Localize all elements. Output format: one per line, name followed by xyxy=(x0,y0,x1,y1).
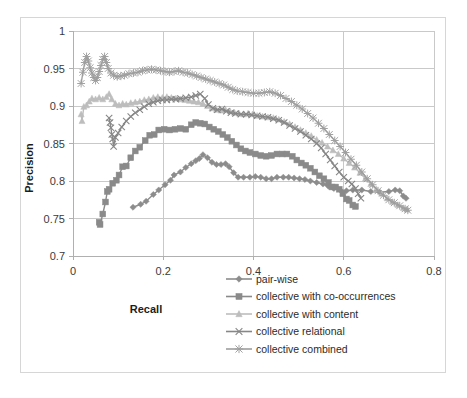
data-point-marker-x xyxy=(318,145,324,151)
y-tick-label: 0.7 xyxy=(50,250,65,262)
series-collective-with-co-occurrences xyxy=(96,120,358,228)
data-point-marker-asterisk xyxy=(287,98,295,106)
data-point-marker-square xyxy=(263,153,269,159)
data-point-marker-square xyxy=(116,172,122,178)
data-point-marker-triangle xyxy=(79,118,85,124)
data-point-marker-square xyxy=(137,144,143,150)
data-point-marker-square xyxy=(247,150,253,156)
legend-item-label: collective relational xyxy=(256,325,345,337)
data-point-marker-asterisk xyxy=(93,74,101,82)
tickmarks xyxy=(69,31,434,260)
data-point-marker-asterisk xyxy=(79,68,87,76)
data-point-marker-triangle xyxy=(330,147,336,153)
data-point-marker-square xyxy=(128,155,134,161)
data-point-marker-square xyxy=(177,126,183,132)
data-point-marker-square xyxy=(269,153,275,159)
data-point-marker-square xyxy=(156,127,162,133)
series-line xyxy=(81,57,408,211)
data-point-marker-diamond xyxy=(302,176,308,182)
data-point-marker-asterisk xyxy=(235,345,243,353)
data-point-marker-square xyxy=(258,153,264,159)
y-tick-label: 0.8 xyxy=(50,175,65,187)
data-point-marker-square xyxy=(100,211,106,217)
data-point-marker-square xyxy=(123,163,129,169)
data-point-marker-square xyxy=(167,127,173,133)
data-point-marker-asterisk xyxy=(358,168,366,176)
data-point-marker-square xyxy=(142,138,148,144)
legend-item-label: collective combined xyxy=(256,343,348,355)
data-point-marker-asterisk xyxy=(266,88,274,96)
data-point-marker-square xyxy=(252,151,258,157)
x-tick-label: 0 xyxy=(70,265,76,277)
data-point-marker-square xyxy=(103,199,109,205)
data-point-marker-square xyxy=(236,293,242,299)
legend-item-pair-wise[interactable]: pair-wise xyxy=(226,273,298,285)
y-tick-label: 0.85 xyxy=(44,138,65,150)
data-point-marker-asterisk xyxy=(239,88,247,96)
data-point-marker-diamond xyxy=(368,188,374,194)
chart-legend: pair-wisecollective with co-occurrencesc… xyxy=(226,273,395,355)
legend-item-collective-relational[interactable]: collective relational xyxy=(226,325,345,337)
data-point-marker-asterisk xyxy=(304,110,312,118)
x-axis-title: Recall xyxy=(130,303,162,315)
data-point-marker-asterisk xyxy=(244,89,252,97)
data-point-marker-triangle xyxy=(335,151,341,157)
y-axis-title: Precision xyxy=(23,143,35,193)
data-point-marker-square xyxy=(161,126,167,132)
data-point-marker-diamond xyxy=(314,179,320,185)
data-point-marker-x xyxy=(349,181,355,187)
legend-item-collective-combined[interactable]: collective combined xyxy=(226,343,348,355)
data-point-marker-square xyxy=(183,126,189,132)
legend-item-collective-with-co-occurrences[interactable]: collective with co-occurrences xyxy=(226,290,395,302)
data-point-marker-asterisk xyxy=(380,191,388,199)
x-tick-label: 0.8 xyxy=(426,265,441,277)
precision-recall-chart: 0.70.750.80.850.90.951 00.20.40.60.8 Pre… xyxy=(21,18,445,372)
y-axis-tick-labels: 0.70.750.80.850.90.951 xyxy=(44,25,65,262)
gridlines xyxy=(73,31,434,256)
data-point-marker-asterisk xyxy=(77,80,85,88)
data-point-marker-square xyxy=(113,177,119,183)
y-tick-label: 0.9 xyxy=(50,100,65,112)
series-layer xyxy=(77,53,412,228)
data-point-marker-diamond xyxy=(307,178,313,184)
data-point-marker-diamond xyxy=(130,204,136,210)
data-point-marker-x xyxy=(202,95,208,101)
data-point-marker-x xyxy=(323,151,329,157)
legend-item-label: collective with co-occurrences xyxy=(256,290,395,302)
data-point-marker-diamond xyxy=(258,174,264,180)
data-point-marker-asterisk xyxy=(95,68,103,76)
data-point-marker-square xyxy=(97,222,103,228)
data-point-marker-square xyxy=(106,186,112,192)
data-point-marker-asterisk xyxy=(101,53,109,61)
data-point-marker-asterisk xyxy=(233,87,241,95)
x-tick-label: 0.6 xyxy=(336,265,351,277)
data-point-marker-diamond xyxy=(286,174,292,180)
data-point-marker-asterisk xyxy=(342,149,350,157)
y-tick-label: 0.95 xyxy=(44,63,65,75)
data-point-marker-square xyxy=(353,204,359,210)
data-point-marker-asterisk xyxy=(293,101,301,109)
data-point-marker-square xyxy=(274,151,280,157)
data-point-marker-asterisk xyxy=(102,59,110,67)
x-tick-label: 0.2 xyxy=(156,265,171,277)
data-point-marker-asterisk xyxy=(84,57,92,65)
data-point-marker-diamond xyxy=(386,188,392,194)
data-point-marker-asterisk xyxy=(86,64,94,72)
data-point-marker-triangle xyxy=(109,96,115,102)
legend-item-collective-with-content[interactable]: collective with content xyxy=(226,308,358,320)
data-point-marker-diamond xyxy=(274,174,280,180)
data-point-marker-square xyxy=(172,126,178,132)
y-tick-label: 0.75 xyxy=(44,213,65,225)
data-point-marker-square xyxy=(340,191,346,197)
legend-item-label: collective with content xyxy=(256,308,358,320)
data-point-marker-asterisk xyxy=(404,206,412,214)
data-point-marker-diamond xyxy=(138,201,144,207)
legend-item-label: pair-wise xyxy=(256,273,298,285)
data-point-marker-square xyxy=(284,151,290,157)
data-point-marker-diamond xyxy=(240,174,246,180)
data-point-marker-asterisk xyxy=(374,187,382,195)
data-point-marker-diamond xyxy=(236,276,243,283)
data-point-marker-diamond xyxy=(247,174,253,180)
data-point-marker-x xyxy=(327,157,333,163)
data-point-marker-triangle xyxy=(324,143,330,149)
